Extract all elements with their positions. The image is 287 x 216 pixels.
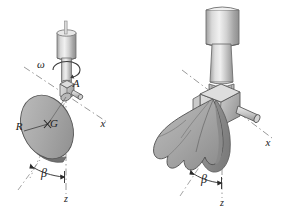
z-axis-label-left: z xyxy=(63,193,68,204)
beta-angle-label-right: β xyxy=(200,172,207,186)
beta-arrowhead-left xyxy=(29,164,34,169)
left-panel-group: ω A G R x β z xyxy=(11,21,107,204)
x-axis-label-right: x xyxy=(265,136,271,148)
mechanics-figure-svg: ω A G R x β z xyxy=(0,0,287,216)
motor-housing-cylinder-right xyxy=(206,7,239,47)
shaft-bottom-edge-right xyxy=(210,82,233,84)
beta-reference-line xyxy=(18,160,40,190)
x-axis-label-left: x xyxy=(100,117,106,129)
motor-housing-cylinder xyxy=(57,30,76,60)
deformed-disk xyxy=(154,99,231,172)
upper-shaft-rod xyxy=(64,21,67,34)
housing-top-arc-right xyxy=(206,7,239,10)
beta-reference-line-right xyxy=(180,166,200,196)
z-axis-label-right: z xyxy=(219,197,224,208)
beta-angle-label-left: β xyxy=(40,166,47,180)
right-panel-group: x β z xyxy=(154,7,272,208)
beta-arc xyxy=(31,166,64,177)
point-a-label: A xyxy=(72,77,80,89)
radius-label: R xyxy=(15,120,23,132)
drive-shaft-right xyxy=(210,44,233,84)
omega-label: ω xyxy=(37,58,45,70)
pivot-pin xyxy=(71,90,84,100)
figure-root: ω A G R x β z xyxy=(0,0,287,216)
center-of-mass-label: G xyxy=(50,117,58,129)
pivot-bracket-assembly xyxy=(60,81,84,103)
